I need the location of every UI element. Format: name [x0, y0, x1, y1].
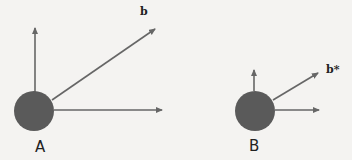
object-a-circle [14, 91, 54, 131]
vector-label-b-star: b* [326, 63, 339, 76]
vector-diagram: b A b* B [0, 0, 352, 160]
panel-a [14, 28, 162, 131]
object-label-a: A [35, 138, 45, 156]
object-b-circle [235, 91, 275, 131]
vector-label-b: b [140, 5, 148, 18]
object-label-b: B [249, 137, 259, 155]
arrow-a-diagonal [52, 29, 155, 100]
arrow-b-diagonal [273, 73, 318, 100]
diagram-canvas [0, 0, 352, 160]
panel-b [235, 70, 319, 131]
